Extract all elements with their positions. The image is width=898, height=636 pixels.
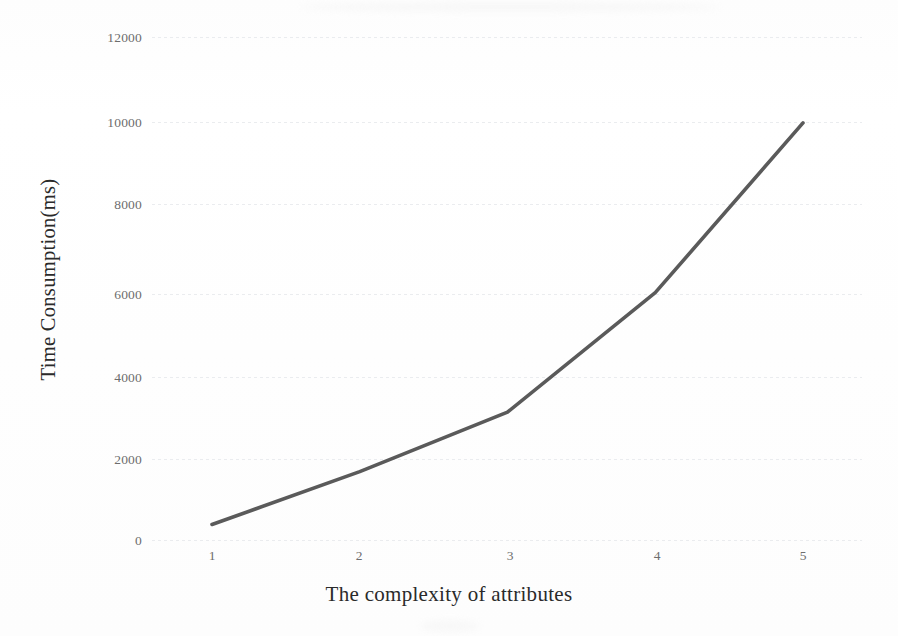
y-axis-title: Time Consumption(ms) — [37, 120, 60, 440]
x-axis-title: The complexity of attributes — [0, 582, 898, 607]
chart-page: 12000 10000 8000 6000 4000 2000 0 1 2 3 … — [0, 0, 898, 636]
series-line-time-consumption — [212, 123, 803, 525]
series-line-chart — [0, 0, 898, 636]
